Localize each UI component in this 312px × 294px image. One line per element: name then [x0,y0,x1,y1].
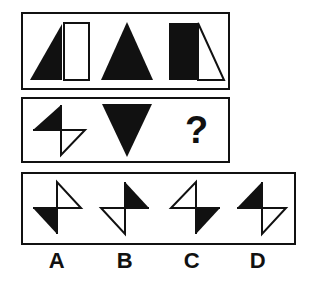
answer-options-panel [21,172,296,245]
sequence-cell-missing: ? [161,99,232,161]
answer-option-c[interactable] [160,174,228,243]
answer-label-b: B [91,248,159,274]
problem-cell-2 [93,14,161,88]
answer-option-b[interactable] [93,174,161,243]
answer-label-c: C [158,248,226,274]
problem-cell-1 [23,14,93,88]
sequence-cell-1 [23,99,93,161]
question-mark-glyph: ? [161,99,232,161]
answer-option-labels: A B C D [21,248,296,278]
answer-option-a[interactable] [25,174,93,243]
problem-cell-3 [161,14,232,88]
matrix-reasoning-puzzle: ? [0,0,312,294]
problem-row-panel [21,12,230,90]
answer-option-d[interactable] [226,174,294,243]
answer-label-a: A [23,248,91,274]
sequence-row-panel: ? [21,97,230,163]
answer-label-d: D [224,248,292,274]
sequence-cell-2 [93,99,161,161]
